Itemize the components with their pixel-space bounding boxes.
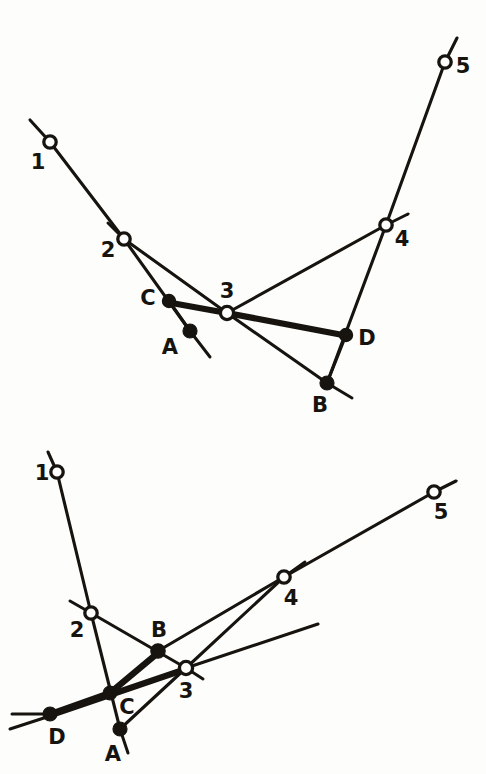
joint-3-lower[interactable] (179, 661, 192, 674)
point-D-lower[interactable] (43, 707, 57, 721)
label-point-A-lower: A (105, 742, 122, 766)
upper-links (30, 38, 457, 398)
label-joint-5-lower: 5 (434, 500, 449, 524)
panel-upper-configuration: 1 2 3 4 5 A B C D (30, 38, 470, 417)
lower-link-4-5 (284, 492, 434, 577)
point-A-upper[interactable] (183, 324, 197, 338)
label-point-B-upper: B (312, 393, 328, 417)
upper-link-1-2 (50, 142, 124, 239)
label-point-C-upper: C (140, 286, 155, 310)
joint-5-lower[interactable] (428, 486, 440, 498)
upper-link-D-B (327, 335, 346, 383)
joint-1-upper[interactable] (44, 136, 56, 148)
point-C-lower[interactable] (103, 686, 117, 700)
label-joint-1-upper: 1 (31, 150, 46, 174)
lower-link-1-2 (57, 472, 91, 613)
lower-links (10, 452, 456, 753)
point-C-upper[interactable] (162, 294, 175, 307)
label-joint-4-upper: 4 (395, 227, 410, 251)
label-joint-2-lower: 2 (70, 618, 85, 642)
joint-2-upper[interactable] (118, 233, 130, 245)
label-point-D-upper: D (358, 326, 375, 350)
upper-link-3-4 (227, 225, 386, 313)
upper-link-4-5 (386, 62, 445, 225)
joint-4-upper[interactable] (380, 219, 392, 231)
joint-1-lower[interactable] (51, 466, 63, 478)
joint-3-upper[interactable] (220, 306, 233, 319)
label-joint-2-upper: 2 (101, 238, 116, 262)
label-point-D-lower: D (48, 725, 65, 749)
label-point-C-lower: C (119, 695, 134, 719)
upper-joints (44, 56, 451, 390)
lower-link-3-4 (186, 577, 284, 668)
label-joint-5-upper: 5 (456, 54, 471, 78)
label-joint-3-lower: 3 (179, 679, 194, 703)
point-A-lower[interactable] (113, 722, 127, 736)
lower-link-2-3 (91, 613, 186, 668)
joint-4-lower[interactable] (278, 571, 290, 583)
joint-5-upper[interactable] (439, 56, 451, 68)
point-D-upper[interactable] (339, 328, 352, 341)
label-joint-4-lower: 4 (284, 586, 299, 610)
lower-link-B-4 (158, 577, 284, 651)
lower-free-ray-from-3 (186, 624, 318, 668)
linkage-diagram: 1 2 3 4 5 A B C D (0, 0, 486, 774)
label-joint-3-upper: 3 (220, 279, 235, 303)
panel-lower-configuration: 1 2 3 4 5 A B C D (10, 452, 456, 766)
point-B-upper[interactable] (320, 376, 334, 390)
label-point-A-upper: A (162, 335, 179, 359)
label-point-B-lower: B (151, 618, 167, 642)
joint-2-lower[interactable] (85, 607, 97, 619)
upper-labels: 1 2 3 4 5 A B C D (31, 54, 471, 417)
figure-root: 1 2 3 4 5 A B C D (0, 0, 486, 774)
label-joint-1-lower: 1 (35, 461, 50, 485)
lower-link-2-A (91, 613, 120, 729)
point-B-lower[interactable] (151, 644, 165, 658)
